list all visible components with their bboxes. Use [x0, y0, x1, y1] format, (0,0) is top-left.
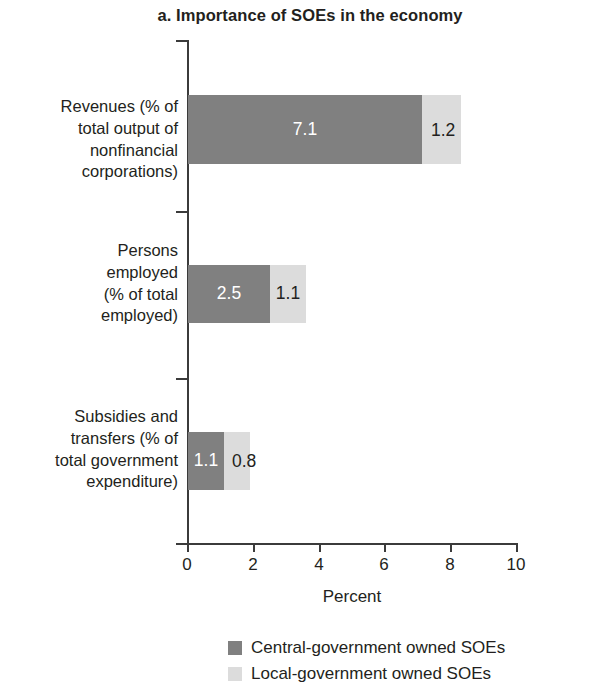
- legend-label-local-government: Local-government owned SOEs: [251, 664, 491, 684]
- bar-row-revenues: 7.1 1.2: [188, 95, 461, 164]
- bar-value-label-central-revenues: 7.1: [293, 121, 317, 139]
- y-axis-label-persons-employed: Persons employed (% of total employed): [8, 240, 178, 327]
- y-axis-label-line: employed: [8, 262, 178, 284]
- x-axis-tick-label: 0: [164, 555, 210, 575]
- bar-value-label-central-subsidies-transfers: 1.1: [194, 452, 218, 470]
- bar-row-persons-employed: 2.5 1.1: [188, 265, 306, 323]
- x-axis-tick-label: 4: [296, 555, 342, 575]
- x-axis-tick-label: 10: [493, 555, 539, 575]
- bar-segment-central-revenues: 7.1: [188, 95, 422, 164]
- legend-item-central-government: Central-government owned SOEs: [228, 637, 505, 659]
- bar-segment-local-persons-employed: 1.1: [270, 265, 306, 323]
- bar-segment-central-subsidies-transfers: 1.1: [188, 432, 224, 490]
- y-axis-label-line: transfers (% of: [8, 428, 178, 450]
- x-axis-tick: [253, 543, 255, 552]
- plot-area: 0 2 4 6 8 10 7.1 1.2 2.5 1.1 1.1 0.8: [187, 40, 517, 543]
- y-axis-category-labels: Revenues (% of total output of nonfinanc…: [8, 40, 178, 543]
- bar-value-label-local-persons-employed: 1.1: [276, 285, 300, 303]
- x-axis-tick: [516, 543, 518, 552]
- y-axis-label-line: total output of: [8, 118, 178, 140]
- y-axis-tick: [176, 211, 187, 213]
- y-axis-tick: [176, 543, 187, 545]
- bar-segment-central-persons-employed: 2.5: [188, 265, 270, 323]
- x-axis-line: [187, 543, 517, 545]
- bar-row-subsidies-transfers: 1.1 0.8: [188, 432, 250, 490]
- y-axis-tick: [176, 378, 187, 380]
- x-axis-tick-label: 6: [361, 555, 407, 575]
- x-axis-tick-label: 2: [230, 555, 276, 575]
- y-axis-label-line: employed): [8, 305, 178, 327]
- x-axis-tick-label: 8: [427, 555, 473, 575]
- x-axis-tick: [187, 543, 189, 552]
- y-axis-label-line: expenditure): [8, 471, 178, 493]
- chart-title: a. Importance of SOEs in the economy: [0, 6, 596, 25]
- x-axis-tick: [450, 543, 452, 552]
- chart-legend: Central-government owned SOEs Local-gove…: [228, 637, 505, 688]
- y-axis-tick: [176, 40, 187, 42]
- x-axis-title: Percent: [187, 587, 517, 607]
- y-axis-label-line: (% of total: [8, 284, 178, 306]
- legend-swatch-local-government-icon: [228, 667, 242, 681]
- y-axis-label-line: Revenues (% of: [8, 96, 178, 118]
- y-axis-label-subsidies-transfers: Subsidies and transfers (% of total gove…: [8, 406, 178, 493]
- legend-label-central-government: Central-government owned SOEs: [251, 638, 505, 658]
- x-axis-tick: [319, 543, 321, 552]
- y-axis-label-line: Persons: [8, 240, 178, 262]
- y-axis-label-line: corporations): [8, 161, 178, 183]
- bar-value-label-central-persons-employed: 2.5: [217, 285, 241, 303]
- legend-swatch-central-government-icon: [228, 641, 242, 655]
- x-axis-tick: [384, 543, 386, 552]
- y-axis-label-revenues: Revenues (% of total output of nonfinanc…: [8, 96, 178, 183]
- y-axis-label-line: Subsidies and: [8, 406, 178, 428]
- legend-item-local-government: Local-government owned SOEs: [228, 663, 505, 685]
- y-axis-label-line: nonfinancial: [8, 140, 178, 162]
- bar-value-label-local-subsidies-transfers: 0.8: [232, 451, 256, 472]
- y-axis-label-line: total government: [8, 450, 178, 472]
- bar-value-label-local-revenues: 1.2: [431, 119, 455, 140]
